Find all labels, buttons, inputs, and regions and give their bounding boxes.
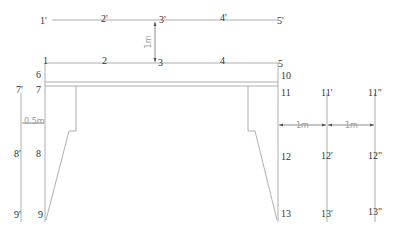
arrow-right-icon (322, 124, 326, 127)
vertical-dimension-label: 1m (144, 35, 153, 48)
point-label: 4' (220, 12, 227, 23)
right-web-outline (248, 86, 277, 220)
arrow-left-icon (328, 124, 332, 127)
point-label: 9' (14, 209, 21, 220)
arrow-right-icon (370, 124, 374, 127)
arrow-left-icon (279, 124, 283, 127)
point-label: 4 (220, 55, 225, 66)
point-label: 8 (36, 148, 41, 159)
point-label: 7 (36, 84, 41, 95)
point-label: 5 (278, 58, 283, 69)
right-offset-dimension-label-2: 1m (345, 121, 358, 130)
arrow-up-icon (154, 22, 157, 26)
point-label: 1 (43, 55, 48, 66)
left-offset-dimension-label: 0.5m (24, 117, 45, 126)
point-label: 3 (158, 57, 163, 68)
point-label: 2' (101, 13, 108, 24)
point-label: 9 (38, 209, 43, 220)
point-label: 12' (321, 150, 333, 161)
point-label: 2 (102, 55, 107, 66)
right-offset-dimension-label-1: 1m (296, 121, 309, 130)
arrow-down-icon (154, 58, 157, 62)
cross-section-diagram: 1m 0.5m 1m 1m 1' 2' 3' 4' 5' 1 2 3 4 5 6… (0, 0, 398, 237)
point-label: 11 (281, 87, 291, 98)
point-label: 3' (159, 14, 166, 25)
point-label: 8' (14, 148, 21, 159)
point-label: 11' (321, 87, 333, 98)
left-web-outline (46, 86, 76, 220)
point-label: 13 (281, 208, 291, 219)
point-label: 12" (368, 150, 382, 161)
point-label: 7' (16, 84, 23, 95)
point-label: 13" (368, 206, 382, 217)
point-label: 11" (368, 87, 382, 98)
point-label: 13' (321, 208, 333, 219)
point-label: 1' (40, 15, 47, 26)
point-label: 6 (36, 69, 41, 80)
point-label: 10 (281, 70, 291, 81)
point-label: 12 (281, 151, 291, 162)
point-label: 5' (277, 15, 284, 26)
